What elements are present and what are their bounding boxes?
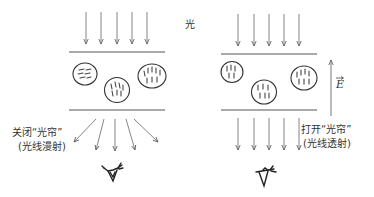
open-state-sublabel: (光线透射)	[303, 138, 351, 150]
lc-droplet-6	[291, 66, 317, 90]
eye-icon-left	[102, 163, 123, 181]
lc-droplet-2	[105, 78, 130, 103]
electric-field-label: E	[336, 78, 344, 91]
incident-light-arrows-left	[86, 12, 147, 44]
scattered-light-arrows	[74, 119, 158, 151]
lc-droplet-3	[138, 64, 166, 88]
lc-droplet-1	[73, 63, 97, 85]
light-label: 光	[185, 19, 195, 31]
incident-light-arrows-right	[238, 14, 299, 46]
left-panel-closed	[69, 12, 166, 181]
eye-icon-right	[256, 166, 276, 186]
lc-droplet-5	[252, 80, 277, 104]
open-state-label: 打开“光帘”	[301, 124, 351, 136]
closed-state-sublabel: (光线漫射)	[18, 141, 66, 153]
closed-state-label: 关闭“光帘”	[12, 127, 62, 139]
transmitted-light-arrows	[238, 118, 299, 150]
right-panel-open	[221, 14, 344, 186]
lc-droplet-4	[221, 62, 243, 83]
